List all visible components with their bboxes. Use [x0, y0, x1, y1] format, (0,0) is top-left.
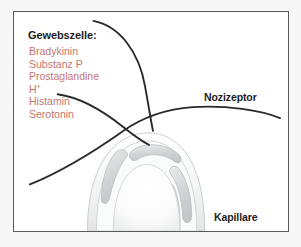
capillary-vessel [87, 133, 204, 231]
mediator-name: Bradykinin [29, 45, 78, 57]
list-item: H+ [29, 83, 99, 96]
list-item: Bradykinin [29, 45, 99, 58]
mediator-name: H [29, 83, 37, 95]
mediator-list: Bradykinin Substanz P Prostaglandine H+ … [29, 45, 99, 121]
mediator-name: Histamin [29, 95, 70, 107]
tissue-cell-heading: Gewebszelle: [28, 29, 97, 41]
nociceptor-label: Nozizeptor [204, 91, 257, 103]
mediator-superscript: + [37, 82, 41, 89]
list-item: Prostaglandine [29, 70, 99, 83]
list-item: Serotonin [29, 108, 99, 121]
figure-root: Gewebszelle: Bradykinin Substanz P Prost… [0, 0, 301, 247]
mediator-name: Substanz P [29, 58, 83, 70]
figure-frame: Gewebszelle: Bradykinin Substanz P Prost… [13, 11, 289, 232]
mediator-name: Serotonin [29, 108, 74, 120]
capillary-label: Kapillare [214, 211, 257, 223]
list-item: Substanz P [29, 58, 99, 71]
mediator-name: Prostaglandine [29, 70, 99, 82]
nerve-fiber-ascending-branch [93, 21, 153, 131]
list-item: Histamin [29, 95, 99, 108]
